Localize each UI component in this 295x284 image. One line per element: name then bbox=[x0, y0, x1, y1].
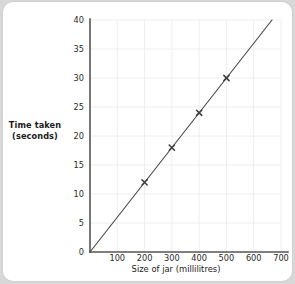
chart-card: Time taken (seconds) 0510152025303540 10… bbox=[3, 2, 292, 281]
y-axis-tick-label: 0 bbox=[64, 248, 84, 257]
x-axis-tick-label: 500 bbox=[213, 254, 239, 263]
x-axis-tick-label: 100 bbox=[104, 254, 130, 263]
x-axis-tick-label: 400 bbox=[186, 254, 212, 263]
x-axis-tick-label: 300 bbox=[159, 254, 185, 263]
x-axis-tick-label: 700 bbox=[268, 254, 292, 263]
y-axis-tick-label: 35 bbox=[64, 45, 84, 54]
chart-plot bbox=[3, 2, 292, 281]
x-axis-title: Size of jar (millilitres) bbox=[63, 264, 289, 274]
y-axis-tick-label: 10 bbox=[64, 190, 84, 199]
y-axis-tick-label: 40 bbox=[64, 16, 84, 25]
y-axis-tick-label: 5 bbox=[64, 219, 84, 228]
gridlines bbox=[90, 20, 281, 252]
y-axis-tick-label: 30 bbox=[64, 74, 84, 83]
y-axis-tick-label: 15 bbox=[64, 161, 84, 170]
y-axis-tick-label: 20 bbox=[64, 132, 84, 141]
y-axis-tick-label: 25 bbox=[64, 103, 84, 112]
x-axis-tick-label: 600 bbox=[241, 254, 267, 263]
axis-lines bbox=[90, 19, 288, 252]
x-axis-tick-label: 200 bbox=[132, 254, 158, 263]
